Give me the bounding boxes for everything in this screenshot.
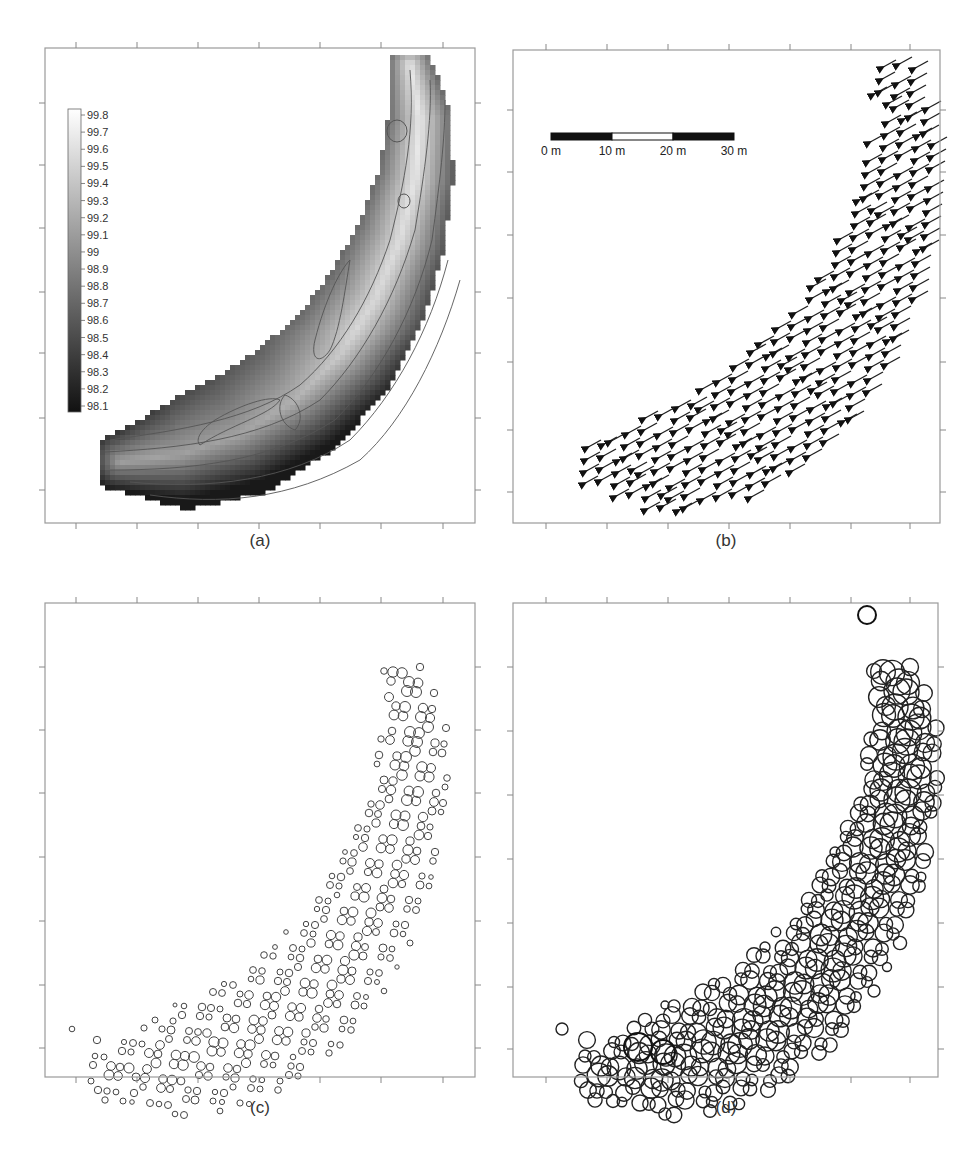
- colorbar-tick-label: 99.7: [87, 126, 108, 138]
- panel-b-caption: (b): [696, 531, 756, 551]
- scale-bar-label: 20 m: [660, 144, 687, 158]
- elevation-field: [100, 55, 456, 511]
- colorbar-tick-label: 98.2: [87, 383, 108, 395]
- colorbar-tick-label: 99.5: [87, 160, 108, 172]
- panel-d: (d): [490, 555, 980, 1150]
- contour-map: 99.899.799.699.599.499.399.299.19998.998…: [0, 0, 490, 560]
- scale-bar-label: 30 m: [721, 144, 748, 158]
- colorbar-tick-label: 98.8: [87, 280, 108, 292]
- colorbar-tick-label: 99.6: [87, 143, 108, 155]
- circle-markers: [556, 659, 944, 1123]
- colorbar-tick-label: 98.5: [87, 332, 108, 344]
- circle-scatter-large: [490, 555, 980, 1150]
- panel-d-caption: (d): [696, 1098, 756, 1118]
- colorbar-tick-label: 98.3: [87, 366, 108, 378]
- colorbar-tick-label: 98.4: [87, 349, 108, 361]
- panel-b: 0 m10 m20 m30 m (b): [490, 0, 980, 560]
- colorbar-tick-label: 99.1: [87, 229, 108, 241]
- vector-field: 0 m10 m20 m30 m: [490, 0, 980, 560]
- velocity-arrows: [586, 57, 947, 510]
- colorbar-tick-label: 99.2: [87, 212, 108, 224]
- circle-scatter-small: [0, 555, 490, 1150]
- axes-frame: [507, 44, 946, 529]
- colorbar-tick-label: 98.9: [87, 263, 108, 275]
- colorbar-tick-label: 99.3: [87, 195, 108, 207]
- panel-a: 99.899.799.699.599.499.399.299.19998.998…: [0, 0, 490, 560]
- panel-a-caption: (a): [230, 531, 290, 551]
- panel-c: (c): [0, 555, 490, 1150]
- scale-bar-label: 0 m: [541, 144, 561, 158]
- scale-bar-label: 10 m: [599, 144, 626, 158]
- colorbar-tick-label: 99: [87, 246, 99, 258]
- axes-frame: [39, 597, 481, 1083]
- colorbar-tick-label: 99.4: [87, 177, 108, 189]
- colorbar-tick-label: 98.7: [87, 297, 108, 309]
- scale-bar: 0 m10 m20 m30 m: [541, 133, 747, 158]
- colorbar: 99.899.799.699.599.499.399.299.19998.998…: [68, 109, 108, 412]
- colorbar-tick-label: 98.1: [87, 400, 108, 412]
- colorbar-tick-label: 98.6: [87, 314, 108, 326]
- colorbar-tick-label: 99.8: [87, 109, 108, 121]
- circle-markers: [69, 663, 450, 1118]
- panel-c-caption: (c): [230, 1098, 290, 1118]
